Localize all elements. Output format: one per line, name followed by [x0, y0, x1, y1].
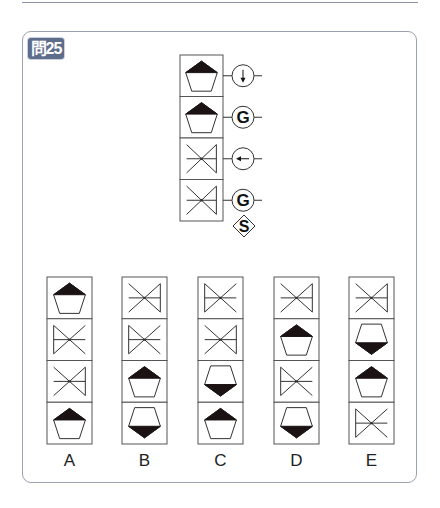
cross-right-bar-figure	[180, 138, 223, 180]
pentagon-top-filled-figure	[47, 277, 92, 319]
s-terminal-icon: S	[233, 215, 255, 237]
option-a-stack	[47, 277, 92, 444]
pentagon-top-filled-figure	[198, 402, 243, 444]
pentagon-top-filled-figure	[274, 319, 319, 361]
puzzle-canvas: GGS	[0, 0, 440, 508]
cross-left-bar-figure	[47, 319, 92, 361]
option-d-stack	[274, 277, 319, 444]
cross-right-bar-figure	[349, 277, 394, 319]
pentagon-bottom-filled-figure	[198, 361, 243, 403]
pentagon-bottom-filled-figure	[274, 402, 319, 444]
svg-text:S: S	[239, 218, 250, 235]
cross-right-bar-figure	[122, 277, 167, 319]
option-d-label[interactable]: D	[274, 451, 319, 471]
pentagon-top-filled-figure	[349, 361, 394, 403]
pentagon-bottom-filled-figure	[122, 402, 167, 444]
pentagon-top-filled-figure	[122, 361, 167, 403]
cross-left-bar-figure	[349, 402, 394, 444]
g-operator-icon: G	[223, 189, 262, 211]
pentagon-top-filled-figure	[180, 55, 223, 97]
pentagon-bottom-filled-figure	[349, 319, 394, 361]
cross-left-bar-figure	[274, 361, 319, 403]
problem-stack	[180, 55, 223, 221]
cross-right-bar-figure	[180, 180, 223, 222]
option-c-label[interactable]: C	[198, 451, 243, 471]
cross-left-bar-figure	[198, 277, 243, 319]
option-e-stack	[349, 277, 394, 444]
arrow-left-operator-icon	[223, 148, 262, 170]
svg-text:G: G	[236, 191, 249, 210]
cross-right-bar-figure	[47, 361, 92, 403]
option-e-label[interactable]: E	[349, 451, 394, 471]
cross-right-bar-figure	[198, 319, 243, 361]
cross-left-bar-figure	[122, 319, 167, 361]
svg-text:G: G	[236, 108, 249, 127]
pentagon-top-filled-figure	[180, 97, 223, 139]
option-b-label[interactable]: B	[122, 451, 167, 471]
g-operator-icon: G	[223, 106, 262, 128]
arrow-down-operator-icon	[223, 65, 262, 87]
option-a-label[interactable]: A	[47, 451, 92, 471]
option-c-stack	[198, 277, 243, 444]
pentagon-top-filled-figure	[47, 402, 92, 444]
option-b-stack	[122, 277, 167, 444]
cross-right-bar-figure	[274, 277, 319, 319]
